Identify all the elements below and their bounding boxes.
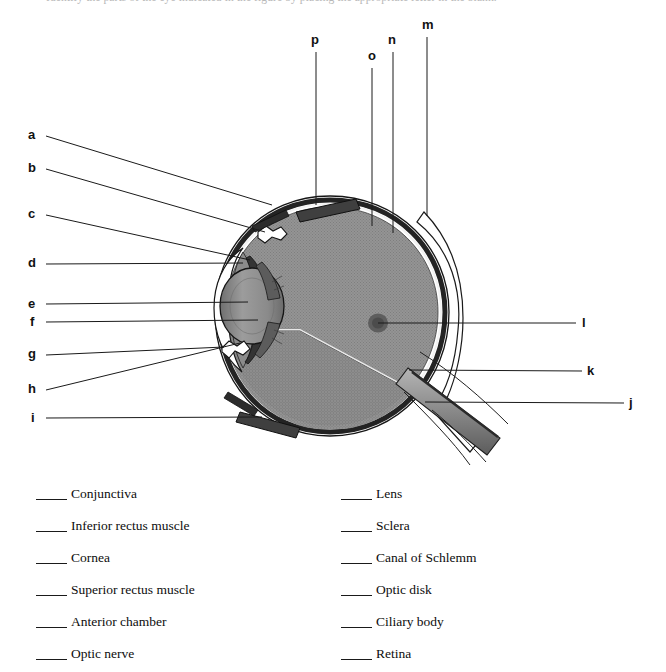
callout-letter-l: l	[582, 316, 586, 329]
answer-column-right: Lens Sclera Canal of Schlemm Optic disk …	[341, 486, 641, 672]
callout-letter-a: a	[28, 128, 35, 141]
leader-j	[425, 402, 624, 403]
answer-label: Inferior rectus muscle	[71, 518, 189, 533]
leader-d	[46, 263, 243, 264]
answer-blank[interactable]	[341, 582, 372, 596]
answer-item-retina[interactable]: Retina	[341, 646, 641, 672]
callout-letter-i: i	[31, 411, 35, 424]
answer-blank[interactable]	[341, 486, 372, 500]
answer-blank[interactable]	[341, 646, 372, 660]
answer-list: Conjunctiva Inferior rectus muscle Corne…	[0, 486, 666, 672]
answer-label: Ciliary body	[376, 614, 444, 629]
answer-column-left: Conjunctiva Inferior rectus muscle Corne…	[36, 486, 336, 672]
leader-a	[46, 136, 272, 205]
answer-label: Superior rectus muscle	[71, 582, 195, 597]
answer-label: Conjunctiva	[71, 486, 137, 501]
callout-letter-g: g	[28, 347, 36, 360]
answer-label: Retina	[376, 646, 411, 661]
answer-blank[interactable]	[341, 614, 372, 628]
answer-item-conjunctiva[interactable]: Conjunctiva	[36, 486, 336, 518]
answer-label: Cornea	[71, 550, 110, 565]
answer-label: Optic nerve	[71, 646, 134, 661]
answer-label: Anterior chamber	[71, 614, 167, 629]
eye-diagram	[0, 0, 666, 480]
answer-label: Lens	[376, 486, 402, 501]
answer-blank[interactable]	[36, 518, 67, 532]
answer-label: Sclera	[376, 518, 410, 533]
callout-letter-o: o	[368, 49, 376, 62]
answer-item-anterior-chamber[interactable]: Anterior chamber	[36, 614, 336, 646]
callout-letter-e: e	[28, 297, 35, 310]
answer-item-cornea[interactable]: Cornea	[36, 550, 336, 582]
callout-letter-j: j	[629, 396, 633, 409]
leader-i	[46, 417, 262, 418]
answer-blank[interactable]	[36, 646, 67, 660]
answer-item-lens[interactable]: Lens	[341, 486, 641, 518]
answer-blank[interactable]	[36, 550, 67, 564]
answer-item-inferior-rectus-muscle[interactable]: Inferior rectus muscle	[36, 518, 336, 550]
callout-letter-p: p	[311, 33, 319, 46]
answer-item-optic-nerve[interactable]: Optic nerve	[36, 646, 336, 672]
answer-blank[interactable]	[36, 582, 67, 596]
answer-item-sclera[interactable]: Sclera	[341, 518, 641, 550]
answer-blank[interactable]	[36, 486, 67, 500]
answer-blank[interactable]	[36, 614, 67, 628]
answer-item-canal-of-schlemm[interactable]: Canal of Schlemm	[341, 550, 641, 582]
worksheet-page: Identify the parts of the eye indicated …	[0, 0, 666, 672]
leader-c	[46, 215, 250, 260]
callout-letter-m: m	[422, 18, 434, 31]
answer-item-optic-disk[interactable]: Optic disk	[341, 582, 641, 614]
callout-letter-d: d	[28, 256, 36, 269]
callout-letter-b: b	[28, 161, 36, 174]
callout-letter-h: h	[28, 382, 36, 395]
answer-label: Optic disk	[376, 582, 432, 597]
answer-item-superior-rectus-muscle[interactable]: Superior rectus muscle	[36, 582, 336, 614]
answer-label: Canal of Schlemm	[376, 550, 476, 565]
answer-blank[interactable]	[341, 550, 372, 564]
answer-blank[interactable]	[341, 518, 372, 532]
answer-item-ciliary-body[interactable]: Ciliary body	[341, 614, 641, 646]
callout-letter-f: f	[30, 315, 34, 328]
leader-h	[46, 343, 240, 390]
callout-letter-c: c	[28, 207, 35, 220]
callout-letter-k: k	[587, 364, 594, 377]
callout-letter-n: n	[388, 33, 396, 46]
